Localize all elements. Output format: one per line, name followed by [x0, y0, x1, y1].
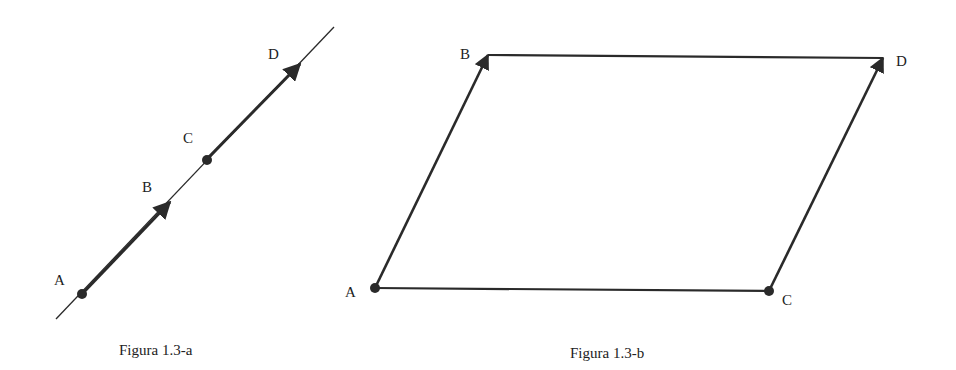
point-c-dot [764, 286, 774, 296]
label-d: D [268, 47, 279, 62]
label-c: C [183, 131, 193, 146]
label-a: A [54, 273, 65, 288]
point-a-dot [370, 283, 380, 293]
point-a-dot [77, 289, 87, 299]
edge-ac [375, 288, 769, 291]
vector-ab [82, 202, 170, 294]
point-c-dot [202, 155, 212, 165]
label-b: B [460, 47, 470, 62]
figure-a-line [56, 27, 334, 319]
edge-bd [488, 55, 883, 58]
vector-cd [769, 58, 883, 291]
vector-cd [206, 64, 300, 160]
label-d: D [896, 54, 907, 69]
caption-figure-b: Figura 1.3-b [570, 346, 644, 361]
figure-b-parallelogram [370, 55, 883, 296]
vector-ab [375, 55, 488, 288]
label-a: A [345, 285, 356, 300]
label-b: B [142, 180, 152, 195]
label-c: C [782, 293, 792, 308]
caption-figure-a: Figura 1.3-a [119, 343, 192, 358]
